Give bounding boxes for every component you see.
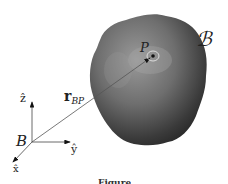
point-label: P <box>139 40 149 55</box>
vector-label: rBP <box>64 88 85 106</box>
y-axis-label: ŷ <box>70 143 78 156</box>
body-label: ℬ <box>196 27 213 51</box>
figure-caption: Figure <box>98 176 131 184</box>
origin-label: B <box>15 132 27 150</box>
x-axis-label: x̂ <box>13 163 19 174</box>
rigid-body-diagram: ℬ P B rBP ẑ ŷ x̂ <box>0 0 228 184</box>
z-axis-label: ẑ <box>20 92 26 105</box>
